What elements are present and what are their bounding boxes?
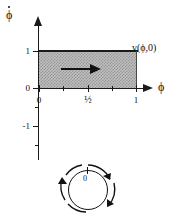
physics-phase-figure: 0 ½ 1 1 0 -1 ϕ ϕ v(ϕ,0) 0 <box>0 0 177 213</box>
x-tick-label-0: 0 <box>37 96 42 105</box>
y-tick-label-neg1: -1 <box>12 122 30 131</box>
y-tick-0 <box>33 88 39 89</box>
x-tick-1 <box>136 85 137 92</box>
x-tick-0 <box>39 85 40 92</box>
x-tick-0p25 <box>63 86 64 91</box>
shaded-region-top-edge <box>39 50 138 52</box>
y-axis-label: ϕ <box>6 9 12 21</box>
y-tick-label-0: 0 <box>14 84 30 93</box>
flow-arrow-shaft <box>61 68 91 70</box>
y-tick-neg1 <box>33 126 39 127</box>
y-tick-label-1: 1 <box>14 47 30 56</box>
y-axis-arrowhead-icon <box>34 16 42 26</box>
y-tick-minor-neg05 <box>35 107 39 108</box>
phi-dot-symbol: ϕ <box>6 9 12 21</box>
x-axis-label: ϕ <box>158 81 164 93</box>
rotation-arrows-icon <box>52 162 128 213</box>
flow-arrow-head-icon <box>90 64 101 74</box>
x-tick-label-half: ½ <box>84 95 92 105</box>
phi-glyph: ϕ <box>6 8 12 22</box>
x-tick-0p5 <box>88 85 89 92</box>
x-axis-arrowhead-icon <box>143 84 153 92</box>
x-tick-label-1: 1 <box>134 96 139 105</box>
shaded-region-right-edge <box>136 51 137 88</box>
y-tick-1 <box>33 51 39 52</box>
x-tick-0p75 <box>112 86 113 91</box>
y-tick-minor-neg15 <box>35 145 39 146</box>
x-axis-line <box>38 88 146 89</box>
velocity-field-label: v(ϕ,0) <box>132 43 156 53</box>
circle-diagram: 0 <box>52 162 128 213</box>
